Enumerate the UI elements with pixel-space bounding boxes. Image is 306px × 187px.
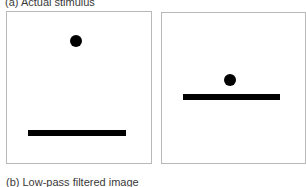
dot-shape (224, 74, 236, 86)
stimulus-panel-right (161, 12, 306, 164)
bar-shape (183, 94, 280, 100)
stimulus-panel-left (6, 11, 152, 164)
caption-actual-stimulus: (a) Actual stimulus (5, 0, 95, 8)
dot-shape (70, 35, 82, 47)
bar-shape (28, 130, 126, 136)
caption-low-pass-filtered: (b) Low-pass filtered image (6, 176, 139, 187)
